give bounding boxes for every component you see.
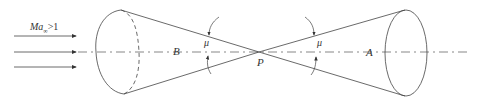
point-a-label: A xyxy=(366,47,373,58)
point-p-label: P xyxy=(257,57,264,68)
inflow-arrows xyxy=(14,36,76,67)
inflow-mach-label: Ma∞>1 xyxy=(30,22,58,34)
angle-mu-left-label: μ xyxy=(204,38,209,48)
angle-mu-right-label: μ xyxy=(317,38,322,48)
point-b-label: B xyxy=(173,46,180,57)
cone-lines xyxy=(121,10,405,96)
mach-condition: >1 xyxy=(48,21,59,32)
right-cone-base xyxy=(385,10,427,96)
mach-cone-diagram: Ma∞>1 B μ P μ A xyxy=(0,0,481,103)
diagram-canvas xyxy=(0,0,481,103)
mach-symbol: Ma xyxy=(30,21,43,32)
